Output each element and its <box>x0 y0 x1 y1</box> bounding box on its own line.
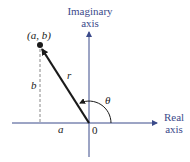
point-ab-dot <box>37 42 43 48</box>
theta-label: θ <box>105 95 110 106</box>
complex-plane-diagram: Imaginary axis Real axis (a, b) r b a 0 … <box>0 0 190 162</box>
a-label: a <box>58 124 64 135</box>
origin-label: 0 <box>92 125 98 136</box>
real-axis-label-line2: axis <box>160 124 188 135</box>
radius-label: r <box>67 70 71 81</box>
imaginary-axis-label-line1: Imaginary <box>66 6 114 17</box>
radius-vector <box>42 49 89 123</box>
imaginary-axis-label-line2: axis <box>66 18 114 29</box>
point-ab-label: (a, b) <box>27 30 51 41</box>
b-label: b <box>31 80 37 91</box>
real-axis-label-line1: Real <box>160 112 188 123</box>
